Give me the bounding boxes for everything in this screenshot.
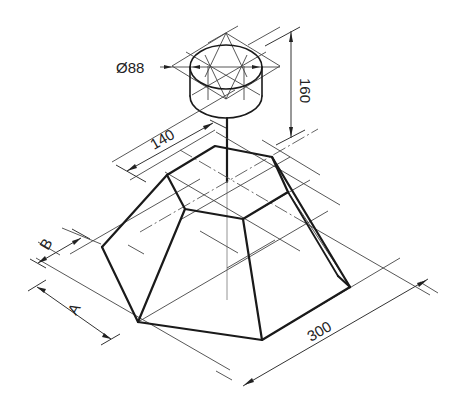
diameter-label: Ø88 [116,59,144,76]
base-width-dimension-label: 300 [304,317,334,344]
center-lines [140,129,318,300]
diameter-leader-arrow [164,65,172,69]
dimension-b: B [30,229,90,268]
dimension-160: 160 [265,27,314,145]
label-b: B [36,235,56,252]
cylinder [160,26,280,118]
dimension-a: A [28,280,120,345]
height-dimension-label: 160 [297,78,314,103]
top-width-dimension-label: 140 [147,125,177,152]
label-a: A [64,300,84,317]
cylinder-bottom-arc [190,96,262,118]
technical-drawing: 160 140 300 B A Ø88 [0,0,452,415]
